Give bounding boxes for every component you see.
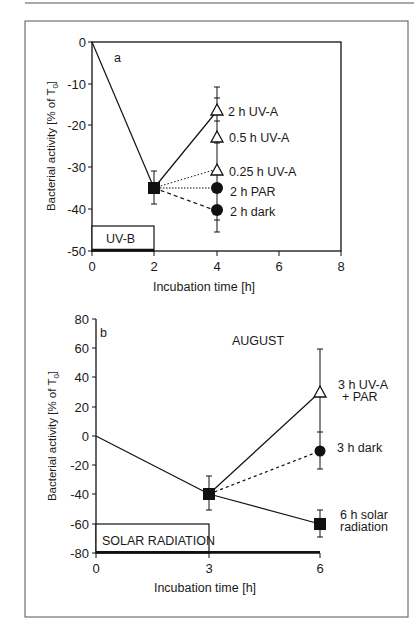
- y-tick-label: -60: [70, 517, 89, 532]
- panel-label-a: a: [114, 51, 121, 65]
- label-6h-solar-line2: radiation: [340, 520, 388, 534]
- x-tick-label: 6: [316, 561, 323, 576]
- y-axis-label-b: Bacterial activity [% of T0]: [46, 371, 61, 501]
- label-3h-dark: 3 h dark: [337, 441, 383, 455]
- x-ticks-a: [92, 251, 341, 256]
- line-uvb: [92, 42, 154, 188]
- label-uva-par-line2: + PAR: [342, 390, 378, 404]
- marker-triangle-2h-uva: [211, 104, 223, 115]
- line-6h-solar: [209, 494, 320, 524]
- x-tick-label: 4: [213, 259, 220, 274]
- marker-circle-2h-par: [211, 182, 223, 194]
- y-tick-label: 80: [75, 312, 89, 327]
- y-tick-label: 0: [79, 35, 86, 50]
- marker-circle-3h-dark: [315, 446, 326, 457]
- figure: 0 -10 -20 -30 -40 -50 0 2 4 6 8 Incubati…: [0, 0, 414, 630]
- x-tick-label: 2: [150, 259, 157, 274]
- chart-b: 80 60 40 20 0 -20 -40 -60 -80 0 3 6 Incu…: [46, 312, 389, 595]
- y-tick-label: -20: [70, 458, 89, 473]
- line-uva-par: [209, 392, 320, 494]
- label-025h-uva: 0.25 h UV-A: [229, 165, 297, 179]
- y-tick-label: 40: [75, 370, 89, 385]
- line-2h-dark: [154, 188, 217, 211]
- marker-square-b-x3: [203, 488, 215, 500]
- chart-title-august: AUGUST: [232, 334, 284, 348]
- label-05h-uva: 0.5 h UV-A: [229, 131, 290, 145]
- y-tick-label: -80: [70, 546, 89, 561]
- solar-bar-label: SOLAR RADIATION: [102, 534, 215, 548]
- error-bar-b-x6: [317, 349, 323, 537]
- marker-triangle-025h-uva: [211, 164, 223, 175]
- line-solar-first: [96, 436, 209, 494]
- y-axis-label-a: Bacterial activity [% of T0]: [45, 81, 60, 211]
- y-tick-label: 60: [75, 341, 89, 356]
- x-ticks-b: [96, 553, 320, 558]
- label-2h-uva: 2 h UV-A: [228, 105, 279, 119]
- label-2h-dark: 2 h dark: [230, 205, 276, 219]
- y-tick-label: -40: [67, 202, 86, 217]
- x-tick-label: 0: [92, 561, 99, 576]
- x-tick-label: 3: [205, 561, 212, 576]
- line-025h-uva: [154, 169, 217, 188]
- x-axis-label-b: Incubation time [h]: [154, 581, 256, 595]
- x-tick-label: 8: [337, 259, 344, 274]
- line-3h-dark: [209, 451, 320, 494]
- label-2h-par: 2 h PAR: [230, 185, 276, 199]
- panel-label-b: b: [100, 326, 107, 340]
- marker-triangle-uva-par: [314, 386, 326, 397]
- y-tick-label: -40: [70, 487, 89, 502]
- x-tick-label: 6: [275, 259, 282, 274]
- x-tick-label: 0: [88, 259, 95, 274]
- y-tick-label: -20: [67, 118, 86, 133]
- marker-square-6h-solar: [314, 518, 326, 530]
- y-tick-label: -50: [67, 244, 86, 259]
- chart-a: 0 -10 -20 -30 -40 -50 0 2 4 6 8 Incubati…: [45, 35, 345, 294]
- y-tick-label: -10: [67, 77, 86, 92]
- marker-square-a: [148, 182, 160, 194]
- y-tick-label: 20: [75, 400, 89, 415]
- uvb-bar-label: UV-B: [106, 232, 135, 246]
- y-tick-label: 0: [82, 429, 89, 444]
- line-2h-uva: [154, 111, 217, 188]
- y-tick-label: -30: [67, 160, 86, 175]
- marker-circle-2h-dark: [211, 204, 223, 216]
- x-axis-label-a: Incubation time [h]: [153, 280, 255, 294]
- marker-triangle-05h-uva: [211, 131, 223, 142]
